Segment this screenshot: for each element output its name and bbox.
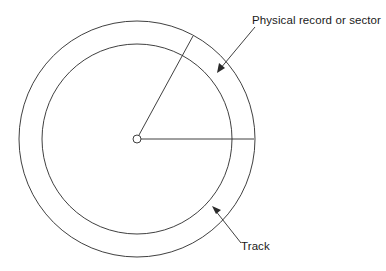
disk-svg <box>0 0 386 271</box>
track-arrowhead-icon <box>212 206 221 214</box>
track-label: Track <box>241 240 270 252</box>
sector-label: Physical record or sector <box>252 14 381 26</box>
sector-boundary-slanted <box>139 36 193 135</box>
center-hub <box>133 135 141 143</box>
sector-pointer-line <box>220 27 255 69</box>
track-pointer-line <box>215 210 241 243</box>
